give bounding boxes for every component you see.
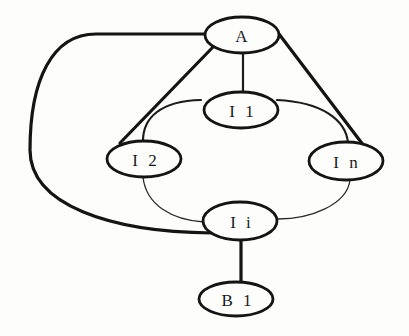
graph-diagram: A I 1 I 2 I n I i B 1 — [0, 0, 409, 336]
edge-a-ii-outer — [30, 34, 212, 233]
node-i2: I 2 — [107, 141, 181, 177]
node-i1: I 1 — [204, 92, 278, 128]
edge-a-in — [279, 34, 364, 146]
node-in: I n — [309, 142, 383, 180]
edge-i2-ii — [143, 177, 204, 222]
node-a: A — [205, 17, 279, 53]
node-b1-label: B 1 — [221, 291, 254, 310]
node-ii-label: I i — [230, 213, 254, 232]
edge-in-ii — [278, 180, 350, 219]
edge-i1-i2 — [143, 100, 201, 141]
node-i1-label: I 1 — [229, 102, 256, 121]
node-b1: B 1 — [199, 282, 273, 316]
node-in-label: I n — [333, 153, 360, 172]
node-i2-label: I 2 — [132, 151, 159, 170]
edge-i1-in — [277, 100, 348, 143]
edge-a-i2 — [120, 46, 214, 143]
node-ii: I i — [203, 202, 277, 240]
node-a-label: A — [235, 27, 250, 46]
